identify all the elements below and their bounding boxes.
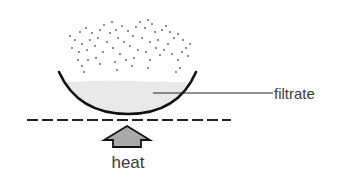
- heat-up-arrow-icon: [104, 126, 150, 147]
- evaporation-diagram: filtrate heat: [0, 0, 358, 177]
- vapor-dots: [69, 19, 191, 73]
- filtrate-label: filtrate: [274, 85, 315, 102]
- filtrate-liquid: [66, 81, 188, 114]
- heat-label: heat: [111, 153, 144, 172]
